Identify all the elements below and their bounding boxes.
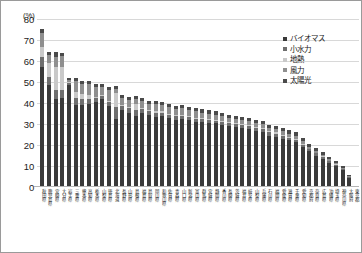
bar-slot[interactable] — [353, 19, 360, 186]
stacked-bar[interactable] — [227, 115, 231, 186]
bar-slot[interactable] — [52, 19, 59, 186]
x-label-slot: 長崎県 — [226, 189, 233, 247]
bar-slot[interactable] — [253, 19, 260, 186]
bar-slot[interactable] — [86, 19, 93, 186]
bar-slot[interactable] — [346, 19, 353, 186]
stacked-bar[interactable] — [140, 98, 144, 186]
stacked-bar[interactable] — [127, 97, 131, 186]
bar-segment-風力 — [140, 101, 144, 108]
stacked-bar[interactable] — [247, 118, 251, 186]
bar-slot[interactable] — [126, 19, 133, 186]
bar-slot[interactable] — [192, 19, 199, 186]
stacked-bar[interactable] — [281, 128, 285, 186]
stacked-bar[interactable] — [80, 81, 84, 186]
bar-slot[interactable] — [166, 19, 173, 186]
bar-slot[interactable] — [159, 19, 166, 186]
stacked-bar[interactable] — [347, 175, 351, 186]
stacked-bar[interactable] — [200, 109, 204, 186]
stacked-bar[interactable] — [47, 52, 51, 186]
stacked-bar[interactable] — [334, 161, 338, 186]
stacked-bar[interactable] — [60, 53, 64, 186]
stacked-bar[interactable] — [40, 29, 44, 186]
bar-slot[interactable] — [186, 19, 193, 186]
bar-slot[interactable] — [119, 19, 126, 186]
stacked-bar[interactable] — [107, 87, 111, 186]
bar-slot[interactable] — [212, 19, 219, 186]
bar-slot[interactable] — [99, 19, 106, 186]
bar-slot[interactable] — [273, 19, 280, 186]
bar-slot[interactable] — [239, 19, 246, 186]
stacked-bar[interactable] — [301, 138, 305, 186]
stacked-bar[interactable] — [54, 52, 58, 186]
stacked-bar[interactable] — [234, 116, 238, 186]
stacked-bar[interactable] — [314, 148, 318, 186]
stacked-bar[interactable] — [327, 157, 331, 186]
x-axis-label: 鳥取県 — [147, 189, 152, 247]
stacked-bar[interactable] — [94, 84, 98, 186]
stacked-bar[interactable] — [187, 107, 191, 186]
stacked-bar[interactable] — [267, 125, 271, 186]
bar-slot[interactable] — [66, 19, 73, 186]
stacked-bar[interactable] — [214, 111, 218, 186]
stacked-bar[interactable] — [67, 78, 71, 186]
bar-slot[interactable] — [39, 19, 46, 186]
bar-slot[interactable] — [79, 19, 86, 186]
stacked-bar[interactable] — [87, 81, 91, 186]
x-axis-label: 鹿児島県 — [47, 189, 52, 247]
bar-slot[interactable] — [146, 19, 153, 186]
stacked-bar[interactable] — [174, 106, 178, 186]
bar-slot[interactable] — [326, 19, 333, 186]
bar-slot[interactable] — [59, 19, 66, 186]
legend-item-solar[interactable]: 太陽光 — [283, 76, 325, 85]
bar-slot[interactable] — [152, 19, 159, 186]
bar-segment-地熱 — [114, 93, 118, 108]
stacked-bar[interactable] — [167, 104, 171, 186]
stacked-bar[interactable] — [134, 96, 138, 186]
stacked-bar[interactable] — [154, 101, 158, 186]
stacked-bar[interactable] — [287, 130, 291, 186]
bar-slot[interactable] — [246, 19, 253, 186]
bar-segment-風力 — [74, 81, 78, 92]
bar-slot[interactable] — [266, 19, 273, 186]
bar-slot[interactable] — [219, 19, 226, 186]
bar-slot[interactable] — [339, 19, 346, 186]
stacked-bar[interactable] — [180, 105, 184, 186]
bar-slot[interactable] — [132, 19, 139, 186]
bar-slot[interactable] — [172, 19, 179, 186]
bar-slot[interactable] — [139, 19, 146, 186]
legend-item-geothermal[interactable]: 地熱 — [283, 55, 325, 64]
bar-slot[interactable] — [333, 19, 340, 186]
bar-slot[interactable] — [199, 19, 206, 186]
bar-slot[interactable] — [106, 19, 113, 186]
stacked-bar[interactable] — [341, 166, 345, 186]
stacked-bar[interactable] — [207, 110, 211, 186]
bar-slot[interactable] — [226, 19, 233, 186]
stacked-bar[interactable] — [100, 84, 104, 186]
stacked-bar[interactable] — [74, 78, 78, 186]
bar-slot[interactable] — [46, 19, 53, 186]
legend-item-wind[interactable]: 風力 — [283, 66, 325, 75]
stacked-bar[interactable] — [114, 86, 118, 186]
stacked-bar[interactable] — [274, 126, 278, 186]
stacked-bar[interactable] — [261, 121, 265, 186]
bar-slot[interactable] — [179, 19, 186, 186]
bar-slot[interactable] — [72, 19, 79, 186]
stacked-bar[interactable] — [194, 108, 198, 186]
stacked-bar[interactable] — [160, 102, 164, 186]
stacked-bar[interactable] — [321, 152, 325, 186]
bar-slot[interactable] — [259, 19, 266, 186]
stacked-bar[interactable] — [120, 95, 124, 186]
legend-item-biomass[interactable]: バイオマス — [283, 34, 325, 43]
x-label-slot: 愛媛県 — [279, 189, 286, 247]
stacked-bar[interactable] — [254, 120, 258, 186]
stacked-bar[interactable] — [307, 144, 311, 186]
bar-slot[interactable] — [92, 19, 99, 186]
stacked-bar[interactable] — [220, 113, 224, 186]
stacked-bar[interactable] — [147, 101, 151, 186]
legend-item-small_hydro[interactable]: 小水力 — [283, 45, 325, 54]
bar-slot[interactable] — [206, 19, 213, 186]
stacked-bar[interactable] — [294, 132, 298, 186]
stacked-bar[interactable] — [240, 117, 244, 186]
bar-slot[interactable] — [112, 19, 119, 186]
bar-slot[interactable] — [232, 19, 239, 186]
